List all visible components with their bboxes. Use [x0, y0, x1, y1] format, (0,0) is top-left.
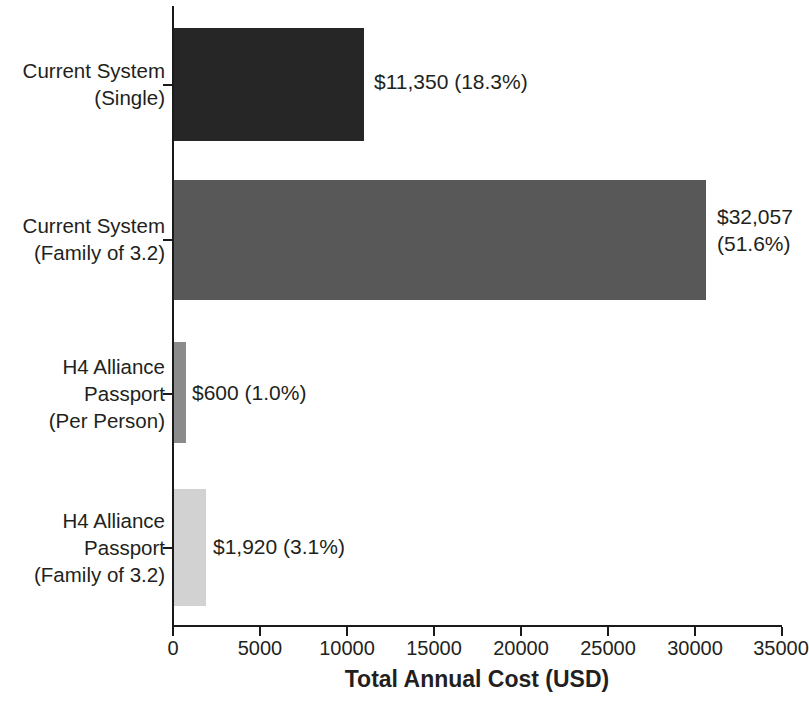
y-axis-category-label: H4 Alliance Passport (Per Person): [49, 353, 165, 434]
x-axis-tick-label: 35000: [753, 636, 809, 660]
bar-current-system-family: [174, 180, 706, 300]
x-axis-tick: [520, 627, 522, 636]
bar-value-label: $600 (1.0%): [192, 379, 306, 406]
x-axis-title: Total Annual Cost (USD): [172, 666, 782, 693]
bar-value-label: $32,057 (51.6%): [717, 203, 793, 257]
x-axis-tick-label: 5000: [238, 636, 283, 660]
y-axis-category-label: H4 Alliance Passport (Family of 3.2): [34, 507, 165, 588]
x-axis-line: [172, 625, 782, 627]
x-axis-tick-label: 0: [167, 636, 178, 660]
x-axis-tick-label: 25000: [580, 636, 636, 660]
bar-h4-passport-family: [174, 489, 206, 606]
x-axis-tick: [346, 627, 348, 636]
bar-value-label: $1,920 (3.1%): [213, 533, 345, 560]
x-axis-tick: [607, 627, 609, 636]
x-axis-tick: [172, 627, 174, 636]
x-axis-tick: [694, 627, 696, 636]
y-axis-category-label: Current System (Single): [23, 57, 165, 111]
bar-current-system-single: [174, 28, 364, 141]
x-axis-tick-label: 30000: [667, 636, 723, 660]
x-axis-tick-label: 15000: [406, 636, 462, 660]
x-axis-tick: [781, 627, 783, 636]
x-axis-tick-label: 10000: [319, 636, 375, 660]
y-axis-category-label: Current System (Family of 3.2): [23, 212, 165, 266]
bar-h4-passport-per-person: [174, 342, 186, 443]
x-axis-tick: [433, 627, 435, 636]
bar-value-label: $11,350 (18.3%): [374, 68, 528, 95]
x-axis-tick-label: 20000: [493, 636, 549, 660]
x-axis-tick: [259, 627, 261, 636]
